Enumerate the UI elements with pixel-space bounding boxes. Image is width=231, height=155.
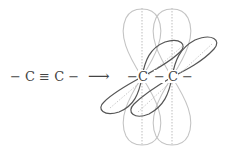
bond-left: − (127, 70, 138, 83)
carbon-1: C (138, 70, 148, 83)
triple-bond-formula: − C ≡ C − (10, 70, 79, 83)
bond-right: − (182, 70, 193, 83)
bond-middle: − (154, 70, 165, 83)
reaction-arrow: ⟶ (88, 69, 110, 84)
carbon-2: C (168, 70, 178, 83)
